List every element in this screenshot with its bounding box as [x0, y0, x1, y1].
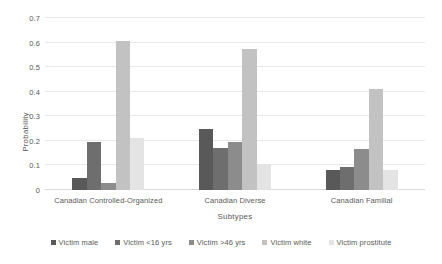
legend-label: Victim <16 yrs	[123, 238, 172, 247]
bar[interactable]	[130, 138, 144, 190]
bar[interactable]	[101, 183, 115, 190]
bar-groups: Canadian Controlled-OrganizedCanadian Di…	[45, 18, 425, 190]
legend-item[interactable]: Victim male	[51, 238, 99, 247]
chart-legend: Victim maleVictim <16 yrsVictim >46 yrsV…	[0, 238, 442, 247]
bar-group: Canadian Familial	[298, 18, 425, 190]
bar[interactable]	[354, 149, 368, 190]
legend-item[interactable]: Victim <16 yrs	[115, 238, 172, 247]
bar-set	[72, 18, 144, 190]
bar[interactable]	[213, 148, 227, 190]
x-axis-tick-label: Canadian Familial	[331, 196, 393, 205]
x-axis-label: Subtypes	[45, 212, 425, 221]
legend-swatch-icon	[329, 240, 334, 245]
bar-group: Canadian Controlled-Organized	[45, 18, 172, 190]
x-axis-tick-label: Canadian Diverse	[204, 196, 265, 205]
y-axis-tick-label: 0.7	[29, 14, 40, 23]
bar[interactable]	[199, 129, 213, 190]
bar[interactable]	[116, 41, 130, 190]
bar[interactable]	[383, 170, 397, 190]
legend-item[interactable]: Victim prostitute	[329, 238, 392, 247]
legend-swatch-icon	[189, 240, 194, 245]
y-axis-tick-label: 0.3	[29, 112, 40, 121]
y-axis-tick-label: 0	[36, 186, 40, 195]
legend-swatch-icon	[262, 240, 267, 245]
bar-chart: Probability 00.10.20.30.40.50.60.7 Canad…	[0, 0, 442, 264]
bar-set	[199, 18, 271, 190]
plot-area: 00.10.20.30.40.50.60.7 Canadian Controll…	[45, 18, 425, 190]
bar[interactable]	[257, 164, 271, 190]
bar[interactable]	[72, 178, 86, 190]
bar-set	[326, 18, 398, 190]
y-axis-tick-label: 0.6	[29, 38, 40, 47]
legend-label: Victim male	[59, 238, 99, 247]
legend-swatch-icon	[115, 240, 120, 245]
bar[interactable]	[340, 167, 354, 190]
bar-group: Canadian Diverse	[172, 18, 299, 190]
legend-label: Victim white	[270, 238, 311, 247]
bar[interactable]	[242, 49, 256, 190]
bar[interactable]	[228, 142, 242, 190]
legend-label: Victim >46 yrs	[197, 238, 246, 247]
legend-label: Victim prostitute	[337, 238, 392, 247]
legend-swatch-icon	[51, 240, 56, 245]
y-axis-tick-label: 0.4	[29, 87, 40, 96]
y-axis-tick-label: 0.1	[29, 161, 40, 170]
legend-item[interactable]: Victim white	[262, 238, 311, 247]
y-axis-tick-label: 0.2	[29, 136, 40, 145]
x-axis-tick-label: Canadian Controlled-Organized	[54, 196, 162, 205]
bar[interactable]	[369, 89, 383, 190]
legend-item[interactable]: Victim >46 yrs	[189, 238, 246, 247]
bar[interactable]	[87, 142, 101, 190]
bar[interactable]	[326, 170, 340, 190]
y-axis-tick-label: 0.5	[29, 63, 40, 72]
